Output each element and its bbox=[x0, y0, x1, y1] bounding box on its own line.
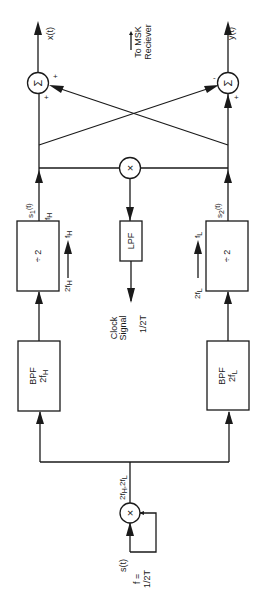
arrow-down-icon bbox=[127, 288, 135, 303]
input-section: × s(t) f = 1/2T 2fH,2fL bbox=[36, 411, 233, 588]
divider-high-out-label: fH bbox=[63, 231, 73, 238]
bpf-low-block: BPF 2fL bbox=[207, 341, 249, 410]
clock-output-label: Clock Signal 1/2T bbox=[109, 314, 148, 340]
bpf-high-block: BPF 2fH bbox=[18, 341, 60, 411]
summer-bottom-sign-a: - bbox=[213, 73, 216, 82]
divider-high-in-label: 2fH bbox=[63, 280, 73, 292]
s1-freq-label: fH bbox=[43, 213, 53, 220]
output-y-label: y(t) bbox=[226, 27, 236, 40]
clock-line2: Signal bbox=[118, 315, 128, 340]
divider-low-label: ÷ 2 bbox=[222, 250, 232, 262]
arrow-up-icon bbox=[194, 240, 202, 254]
arrow-right-icon bbox=[204, 85, 219, 93]
squarer-symbol: × bbox=[124, 510, 136, 516]
receiver-note-line2: Reciever bbox=[143, 24, 153, 60]
bpf-high-name: BPF bbox=[28, 367, 38, 385]
s1-label: s1(t) bbox=[25, 203, 36, 218]
arrow-up-icon bbox=[224, 94, 232, 108]
clock-freq: 1/2T bbox=[138, 314, 148, 333]
summer-top-sign-a: + bbox=[53, 72, 58, 81]
divider-low-block: ÷ 2 2fL fL bbox=[193, 221, 248, 299]
arrow-up-icon bbox=[35, 170, 43, 183]
msk-block-diagram: × s(t) f = 1/2T 2fH,2fL BPF 2fH bbox=[0, 0, 262, 594]
input-freq-label: f = bbox=[132, 574, 142, 584]
mixer-section: × bbox=[39, 158, 228, 222]
divider-high-block: ÷ 2 2fH fH bbox=[17, 221, 73, 292]
input-signal-label: s(t) bbox=[118, 559, 128, 572]
summer-bottom-symbol: Σ bbox=[222, 79, 234, 86]
arrow-up-icon bbox=[126, 522, 134, 536]
summer-top-sign-b: + bbox=[44, 93, 49, 102]
arrow-up-icon bbox=[35, 291, 43, 304]
arrow-up-icon bbox=[34, 21, 42, 35]
summer-top-symbol: Σ bbox=[32, 79, 44, 86]
lpf-label: LPF bbox=[126, 232, 136, 249]
s2-label: s2(t) bbox=[214, 203, 225, 218]
divider-low-out-label: fL bbox=[193, 232, 203, 238]
arrow-down-icon bbox=[126, 207, 134, 221]
receiver-note-line1: To MSK bbox=[133, 26, 143, 58]
divider-low-in-label: 2fL bbox=[193, 288, 203, 299]
divider-high-label: ÷ 2 bbox=[33, 250, 43, 262]
mixer-symbol: × bbox=[124, 165, 136, 171]
bpf-low-name: BPF bbox=[217, 367, 227, 385]
arrow-up-icon bbox=[36, 411, 44, 424]
arrow-up-icon bbox=[224, 170, 232, 183]
lpf-block: LPF bbox=[120, 221, 142, 303]
arrow-up-icon bbox=[225, 411, 233, 424]
output-x-label: x(t) bbox=[45, 27, 55, 40]
input-freq-value: 1/2T bbox=[142, 569, 152, 588]
arrow-left-icon bbox=[49, 85, 64, 93]
arrow-up-icon bbox=[64, 240, 72, 254]
squarer-output-label: 2fH,2fL bbox=[118, 475, 128, 500]
arrow-up-icon bbox=[224, 291, 232, 304]
receiver-note: To MSK Reciever bbox=[129, 24, 153, 60]
summer-bottom-sign-b: + bbox=[234, 93, 239, 102]
